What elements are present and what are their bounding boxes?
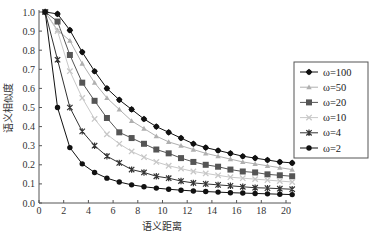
circle-marker (289, 192, 294, 197)
diamond-marker-shape (190, 140, 197, 147)
diamond-marker-shape (252, 155, 259, 162)
triangle-marker (141, 126, 146, 131)
diamond-marker-shape (289, 160, 296, 167)
circle-marker (154, 185, 159, 190)
x-tick-label: 10 (158, 205, 168, 216)
square-marker (178, 155, 184, 161)
chart: 024681012141618200.00.10.20.30.40.50.60.… (0, 0, 370, 240)
square-marker (166, 150, 172, 156)
circle-marker (166, 187, 171, 192)
circle-marker (129, 182, 134, 187)
square-marker (215, 164, 221, 170)
star-marker (92, 143, 97, 149)
y-tick-label: 0.7 (23, 64, 36, 75)
diamond-marker-shape (277, 159, 284, 166)
circle-marker (141, 184, 146, 189)
plot-series (42, 9, 296, 198)
diamond-marker-shape (264, 157, 271, 164)
square-marker (67, 52, 73, 58)
circle-marker (104, 175, 109, 180)
y-tick-label: 1.0 (23, 7, 36, 18)
legend-label: ω=100 (323, 67, 352, 78)
triangle-marker (92, 80, 97, 85)
circle-marker (92, 170, 97, 175)
series-line (45, 12, 292, 195)
x-marker (141, 154, 146, 159)
circle-marker (215, 189, 220, 194)
y-tick-label: 0.1 (23, 178, 36, 189)
circle-marker (117, 179, 122, 184)
diamond-marker-shape (79, 49, 86, 56)
circle-marker (240, 190, 245, 195)
legend-label: ω=10 (323, 112, 346, 123)
x-tick-label: 6 (111, 205, 116, 216)
circle-marker (252, 191, 257, 196)
series-line (45, 12, 292, 170)
x-tick-label: 18 (256, 205, 266, 216)
x-tick-label: 14 (207, 205, 217, 216)
square-marker (129, 135, 135, 141)
square-marker (79, 80, 85, 86)
x-marker (117, 141, 122, 146)
square-marker (203, 162, 209, 168)
y-tick-label: 0.5 (23, 102, 36, 113)
plot-axes: 024681012141618200.00.10.20.30.40.50.60.… (23, 7, 292, 217)
star-marker (117, 160, 122, 166)
square-marker (227, 167, 233, 173)
circle-marker (67, 145, 72, 150)
square-marker (264, 171, 270, 177)
circle-marker (306, 145, 311, 150)
square-marker (141, 141, 147, 147)
x-tick-label: 16 (232, 205, 242, 216)
square-marker (240, 168, 246, 174)
diamond-marker-shape (239, 153, 246, 160)
circle-marker (277, 192, 282, 197)
circle-marker (55, 105, 60, 110)
diamond-marker-shape (165, 129, 172, 136)
star-marker (104, 153, 109, 159)
diamond-marker-shape (202, 144, 209, 151)
y-tick-label: 0.8 (23, 45, 36, 56)
circle-marker (203, 189, 208, 194)
circle-marker (80, 161, 85, 166)
legend-label: ω=50 (323, 82, 346, 93)
square-marker (306, 99, 312, 105)
triangle-marker (166, 139, 171, 144)
circle-marker (228, 190, 233, 195)
y-tick-label: 0.4 (23, 121, 36, 132)
x-tick-label: 4 (86, 205, 91, 216)
y-tick-label: 0.0 (23, 198, 36, 209)
circle-marker (178, 188, 183, 193)
square-marker (289, 173, 295, 179)
diamond-marker-shape (227, 150, 234, 157)
legend: ω=100ω=50ω=20ω=10ω=4ω=2 (294, 62, 368, 158)
x-marker (67, 69, 72, 74)
square-marker (252, 169, 258, 175)
square-marker (55, 19, 61, 25)
x-marker (80, 95, 85, 100)
legend-label: ω=20 (323, 97, 346, 108)
triangle-marker (154, 133, 159, 138)
legend-label: ω=4 (323, 127, 342, 138)
star-marker (80, 128, 85, 134)
x-marker (154, 159, 159, 164)
circle-marker (42, 9, 47, 14)
legend-label: ω=2 (323, 143, 341, 154)
x-tick-label: 8 (135, 205, 140, 216)
x-tick-label: 20 (281, 205, 291, 216)
diamond-marker-shape (91, 68, 98, 75)
x-marker (129, 149, 134, 154)
y-tick-label: 0.3 (23, 140, 36, 151)
diamond-marker-shape (153, 123, 160, 130)
series-5 (42, 9, 294, 197)
square-marker (92, 98, 98, 104)
square-marker (104, 115, 110, 121)
x-tick-label: 0 (37, 205, 42, 216)
square-marker (190, 159, 196, 165)
square-marker (116, 129, 122, 135)
star-marker (67, 104, 72, 110)
x-tick-label: 12 (182, 205, 192, 216)
circle-marker (191, 188, 196, 193)
series-1 (42, 9, 294, 171)
triangle-marker (80, 61, 85, 66)
